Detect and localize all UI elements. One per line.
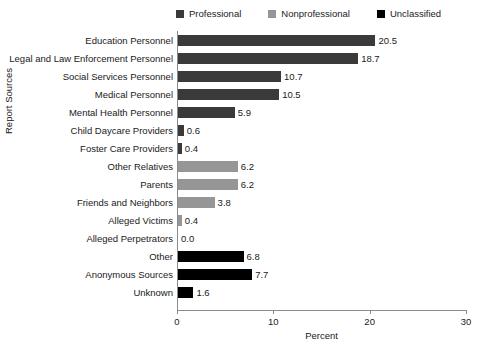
category-label: Friends and Neighbors — [77, 195, 173, 210]
category-label: Medical Personnel — [95, 87, 173, 102]
bar — [178, 269, 252, 280]
bar-row: Alleged Victims0.4 — [177, 212, 466, 230]
bar — [178, 89, 279, 100]
bar — [178, 107, 235, 118]
x-tick-label: 10 — [268, 316, 279, 328]
legend-swatch-icon — [176, 10, 184, 18]
x-tick-label: 0 — [174, 316, 179, 328]
category-label: Alleged Victims — [108, 213, 173, 228]
bar-row: Unknown1.6 — [177, 284, 466, 302]
bar — [178, 53, 358, 64]
bar-value-label: 3.8 — [218, 195, 231, 210]
category-label: Other Relatives — [108, 159, 173, 174]
category-label: Parents — [140, 177, 173, 192]
legend-swatch-icon — [268, 10, 276, 18]
y-axis-title: Report Sources — [3, 68, 15, 134]
category-label: Alleged Perpetrators — [86, 231, 173, 246]
bar-row: Anonymous Sources7.7 — [177, 266, 466, 284]
bar-row: Friends and Neighbors3.8 — [177, 194, 466, 212]
bar-value-label: 18.7 — [361, 51, 380, 66]
legend-label: Nonprofessional — [281, 9, 350, 19]
legend-label: Unclassified — [390, 9, 441, 19]
bar-row: Parents6.2 — [177, 176, 466, 194]
bar-row: Alleged Perpetrators0.0 — [177, 230, 466, 248]
category-label: Mental Health Personnel — [69, 105, 173, 120]
category-label: Child Daycare Providers — [71, 123, 173, 138]
bar-value-label: 7.7 — [255, 267, 268, 282]
bar-row: Mental Health Personnel5.9 — [177, 104, 466, 122]
bar-value-label: 0.4 — [185, 213, 198, 228]
bar — [178, 287, 193, 298]
bar-value-label: 0.6 — [187, 123, 200, 138]
bar-value-label: 10.5 — [282, 87, 301, 102]
category-label: Anonymous Sources — [85, 267, 173, 282]
x-tick-mark — [273, 310, 274, 314]
x-axis-title: Percent — [177, 330, 466, 342]
legend-label: Professional — [189, 9, 241, 19]
bar — [178, 143, 182, 154]
bar — [178, 179, 238, 190]
legend-item: Professional — [176, 9, 241, 19]
bar — [178, 35, 375, 46]
category-label: Education Personnel — [85, 33, 173, 48]
bar-row: Foster Care Providers0.4 — [177, 140, 466, 158]
bar — [178, 125, 184, 136]
x-axis-line — [177, 310, 467, 311]
bar-row: Other6.8 — [177, 248, 466, 266]
bar-value-label: 5.9 — [238, 105, 251, 120]
x-tick-label: 30 — [461, 316, 472, 328]
category-label: Other — [149, 249, 173, 264]
bar-value-label: 20.5 — [378, 33, 397, 48]
bar-chart: ProfessionalNonprofessionalUnclassified … — [0, 0, 481, 348]
legend-item: Nonprofessional — [268, 9, 350, 19]
x-tick-mark — [177, 310, 178, 314]
bar-value-label: 6.2 — [241, 177, 254, 192]
bar-value-label: 6.2 — [241, 159, 254, 174]
category-label: Unknown — [133, 285, 173, 300]
bar-value-label: 0.0 — [181, 231, 194, 246]
legend-item: Unclassified — [377, 9, 441, 19]
plot-area: Education Personnel20.5Legal and Law Enf… — [177, 31, 466, 310]
category-label: Foster Care Providers — [80, 141, 173, 156]
legend-swatch-icon — [377, 10, 385, 18]
bar — [178, 71, 281, 82]
x-tick-mark — [370, 310, 371, 314]
bar-row: Medical Personnel10.5 — [177, 86, 466, 104]
category-label: Legal and Law Enforcement Personnel — [9, 51, 173, 66]
bar-row: Social Services Personnel10.7 — [177, 68, 466, 86]
bar-row: Legal and Law Enforcement Personnel18.7 — [177, 50, 466, 68]
bar — [178, 197, 215, 208]
bar — [178, 251, 244, 262]
bar-row: Other Relatives6.2 — [177, 158, 466, 176]
bar — [178, 215, 182, 226]
x-tick-mark — [466, 310, 467, 314]
bar-value-label: 10.7 — [284, 69, 303, 84]
chart-legend: ProfessionalNonprofessionalUnclassified — [176, 7, 441, 21]
bar-row: Education Personnel20.5 — [177, 32, 466, 50]
bar-value-label: 0.4 — [185, 141, 198, 156]
bar-row: Child Daycare Providers0.6 — [177, 122, 466, 140]
bar-value-label: 6.8 — [247, 249, 260, 264]
bar — [178, 161, 238, 172]
bar-value-label: 1.6 — [196, 285, 209, 300]
category-label: Social Services Personnel — [63, 69, 173, 84]
x-tick-label: 20 — [364, 316, 375, 328]
